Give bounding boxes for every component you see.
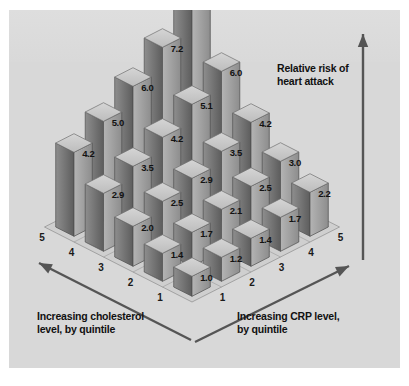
axis-label-relative-risk-line2: heart attack (277, 75, 397, 88)
axis-label-cholesterol-line1: Increasing cholesterol (37, 310, 187, 323)
axis-label-relative-risk: Relative risk of heart attack (277, 62, 397, 88)
bar-value-label: 2.9 (200, 174, 212, 185)
axis-tick-crp-1: 1 (220, 292, 226, 303)
axis-tick-crp-4: 4 (308, 247, 314, 258)
axis-label-cholesterol-line2: level, by quintile (37, 323, 187, 336)
bar-value-label: 2.1 (230, 205, 242, 216)
bar-value-label: 3.0 (289, 157, 301, 168)
bar-value-label: 2.0 (141, 222, 153, 233)
bar-value-label: 1.7 (200, 228, 212, 239)
axis-tick-crp-2: 2 (249, 277, 255, 288)
bar-value-label: 6.0 (230, 67, 242, 78)
bar-left-face (56, 143, 74, 236)
bar-value-label: 2.5 (259, 182, 271, 193)
bar-value-label: 1.2 (230, 253, 242, 264)
axis-tick-crp-3: 3 (279, 262, 285, 273)
axis-label-crp: Increasing CRP level, by quintile (237, 310, 387, 336)
axis-tick-cholesterol-1: 1 (157, 292, 163, 303)
bar-value-label: 3.5 (141, 162, 153, 173)
axis-tick-cholesterol-4: 4 (69, 247, 75, 258)
axis-label-cholesterol: Increasing cholesterol level, by quintil… (37, 310, 187, 336)
bar-value-label: 4.2 (82, 148, 94, 159)
bar-value-label: 1.4 (259, 234, 271, 245)
bar-value-label: 3.5 (230, 147, 242, 158)
bar-left-face (85, 184, 103, 251)
figure-panel: 8.77.26.05.04.26.05.14.23.52.94.23.52.92… (9, 10, 400, 368)
bar-value-label: 2.9 (112, 189, 124, 200)
bar-value-label: 1.4 (171, 249, 183, 260)
bar-value-label: 2.5 (171, 197, 183, 208)
axis-label-relative-risk-line1: Relative risk of (277, 62, 397, 75)
axis-tick-cholesterol-3: 3 (98, 262, 104, 273)
bar-value-label: 7.2 (171, 43, 183, 54)
bar-value-label: 1.7 (289, 213, 301, 224)
bar-value-label: 6.0 (141, 82, 153, 93)
bar-value-label: 2.2 (318, 188, 330, 199)
bar-value-label: 5.1 (200, 100, 212, 111)
bar-value-label: 4.2 (259, 118, 271, 129)
axis-label-crp-line2: by quintile (237, 323, 387, 336)
bar-value-label: 4.2 (171, 133, 183, 144)
bar-value-label: 5.0 (112, 117, 124, 128)
bar-value-label: 1.0 (200, 272, 212, 283)
axis-label-crp-line1: Increasing CRP level, (237, 310, 387, 323)
axis-tick-crp-5: 5 (338, 232, 344, 243)
axis-tick-cholesterol-2: 2 (128, 277, 134, 288)
axis-tick-cholesterol-5: 5 (39, 232, 45, 243)
